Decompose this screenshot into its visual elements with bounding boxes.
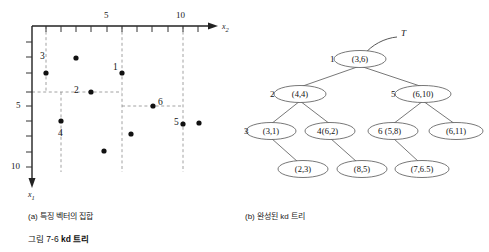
data-point bbox=[119, 70, 124, 75]
figure-caption-prefix: 그림 7-6 bbox=[28, 234, 61, 244]
data-point bbox=[43, 70, 48, 75]
x-tick-label-5: 5 bbox=[104, 10, 109, 20]
data-point bbox=[101, 148, 106, 153]
tree-pointer-label: T bbox=[401, 28, 406, 38]
data-point bbox=[180, 121, 185, 126]
tree-node-value-85: (8,5) bbox=[349, 164, 375, 174]
tree-index-2: 2 bbox=[270, 89, 275, 99]
tree-node-value-5: (6,10) bbox=[408, 89, 438, 99]
figure-caption-suffix: 트리 bbox=[73, 234, 89, 244]
tree-index-3: 3 bbox=[244, 126, 249, 136]
edge-6-765 bbox=[393, 138, 419, 162]
x-axis-arrow bbox=[208, 23, 218, 30]
tree-nodes-group bbox=[246, 51, 483, 178]
y-tick-label-5: 5 bbox=[16, 100, 21, 110]
edge-3-23 bbox=[271, 138, 298, 162]
tree-node-value-611: (6,11) bbox=[442, 126, 470, 136]
point-label-1: 1 bbox=[113, 62, 118, 72]
y-axis-label: x1 bbox=[28, 190, 35, 201]
tree-node-value-3: (3,1) bbox=[258, 126, 284, 136]
data-point bbox=[73, 55, 78, 60]
point-label-4: 4 bbox=[58, 128, 63, 138]
edge-5-611 bbox=[423, 101, 455, 124]
edge-4-85 bbox=[330, 138, 357, 162]
figure-caption-kd: kd bbox=[61, 234, 73, 244]
tree-index-1: 1 bbox=[330, 54, 335, 64]
scatter-plot-svg bbox=[0, 0, 245, 200]
data-points-group bbox=[43, 55, 201, 153]
tree-node-value-6: (5,8) bbox=[380, 126, 406, 136]
data-point bbox=[58, 118, 63, 123]
edge-5-6 bbox=[393, 101, 423, 124]
data-point bbox=[128, 131, 133, 136]
y-axis-arrow bbox=[29, 178, 36, 188]
data-point bbox=[150, 103, 155, 108]
x-axis-ticks bbox=[46, 26, 198, 32]
point-label-6: 6 bbox=[158, 97, 163, 107]
edge-2-3 bbox=[271, 101, 300, 124]
tree-node-value-4: (6,2) bbox=[317, 126, 343, 136]
tree-index-5: 5 bbox=[391, 89, 396, 99]
caption-a: (a) 특징 벡터의 집합 bbox=[28, 210, 93, 221]
data-point bbox=[196, 120, 201, 125]
axes-group bbox=[32, 26, 208, 178]
data-point bbox=[88, 89, 93, 94]
x-axis-label: x2 bbox=[222, 22, 229, 33]
y-tick-label-10: 10 bbox=[11, 161, 20, 171]
tree-edges-group bbox=[271, 66, 455, 162]
point-label-3: 3 bbox=[40, 51, 45, 61]
caption-b: (b) 완성된 kd 트리 bbox=[245, 210, 305, 221]
point-label-2: 2 bbox=[74, 85, 79, 95]
tree-node-value-1: (3,6) bbox=[347, 54, 373, 64]
edge-2-4 bbox=[300, 101, 330, 124]
x-tick-label-10: 10 bbox=[176, 10, 185, 20]
edge-1-2 bbox=[300, 66, 360, 87]
y-axis-ticks bbox=[26, 42, 32, 167]
figure-caption: 그림 7-6 kd 트리 bbox=[28, 232, 89, 244]
point-label-5: 5 bbox=[174, 117, 179, 127]
edge-1-5 bbox=[360, 66, 423, 87]
tree-node-value-23: (2,3) bbox=[290, 164, 316, 174]
tree-node-value-2: (4,4) bbox=[287, 89, 313, 99]
tree-node-value-765: (7,6.5) bbox=[407, 164, 437, 174]
figure-kd-tree: 5 10 5 10 x2 x1 3 1 2 4 6 5 (a) 특징 벡터의 집… bbox=[0, 0, 489, 252]
